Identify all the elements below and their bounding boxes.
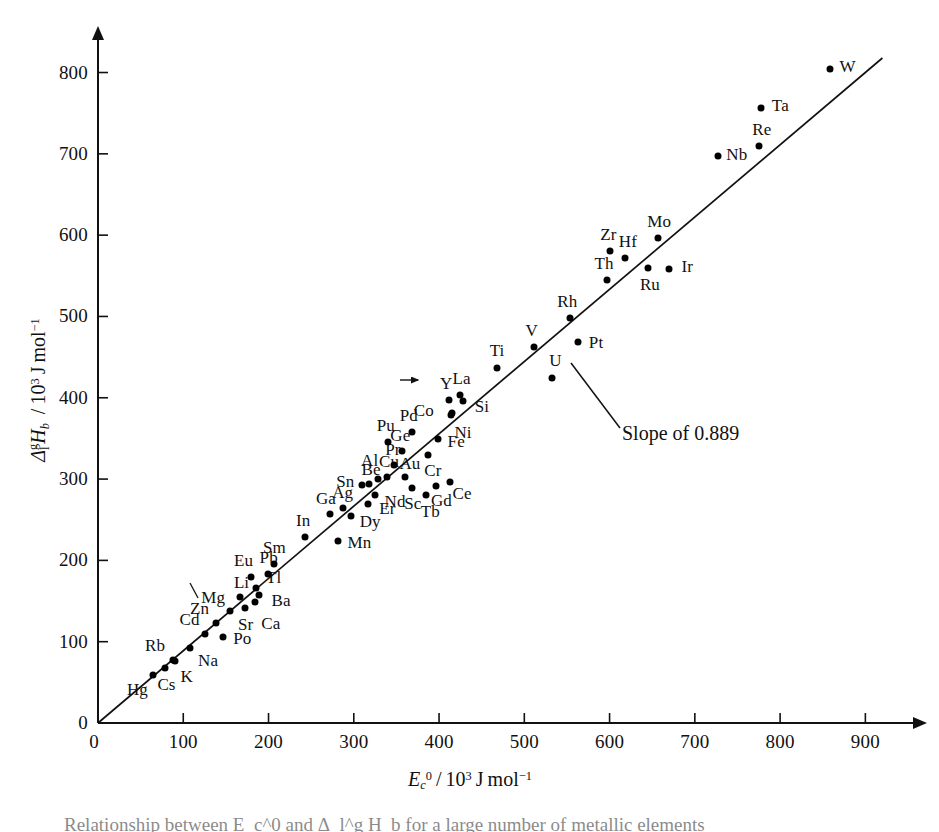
- data-point-label-au: Au: [399, 454, 420, 474]
- data-point-au: [401, 474, 408, 481]
- data-point-ta: [758, 105, 765, 112]
- data-point-label-ru: Ru: [640, 275, 660, 295]
- x-tick-label: 700: [680, 731, 709, 753]
- data-point-label-na: Na: [198, 651, 218, 671]
- data-point-co: [448, 410, 455, 417]
- data-point-ge: [399, 448, 406, 455]
- data-point-label-cr: Cr: [424, 461, 441, 481]
- data-point-w: [826, 66, 833, 73]
- data-point-zr: [607, 248, 614, 255]
- x-tick-label: 0: [89, 731, 99, 753]
- data-point-label-v: V: [525, 321, 537, 341]
- data-point-label-al: Al: [361, 451, 378, 471]
- data-point-tb: [423, 491, 430, 498]
- data-point-zn: [212, 619, 219, 626]
- data-point-label-zr: Zr: [600, 225, 616, 245]
- data-point-mn: [335, 537, 342, 544]
- data-point-pr: [390, 462, 397, 469]
- data-point-label-nb: Nb: [726, 145, 747, 165]
- data-point-pu: [384, 439, 391, 446]
- data-point-re: [755, 142, 762, 149]
- data-point-ru: [644, 264, 651, 271]
- data-point-nb: [714, 153, 721, 160]
- x-axis-title: Ec0 / 103 J mol−1: [408, 768, 532, 793]
- data-point-cr: [424, 451, 431, 458]
- x-tick-label: 300: [339, 731, 368, 753]
- data-point-y: [446, 397, 453, 404]
- data-point-al: [374, 476, 381, 483]
- x-tick-label: 500: [510, 731, 539, 753]
- data-point-rh: [567, 315, 574, 322]
- data-point-label-u: U: [549, 351, 561, 371]
- data-point-hf: [621, 254, 628, 261]
- x-tick-label: 900: [851, 731, 880, 753]
- data-point-mg: [227, 607, 234, 614]
- data-point-label-ta: Ta: [772, 96, 789, 116]
- data-point-label-ca: Ca: [261, 614, 280, 634]
- data-point-be: [366, 480, 373, 487]
- data-point-label-sc: Sc: [404, 494, 421, 514]
- data-point-gd: [433, 482, 440, 489]
- data-point-v: [530, 343, 537, 350]
- data-point-label-si: Si: [475, 397, 489, 417]
- y-tick-label: 800: [59, 62, 88, 84]
- data-point-label-rh: Rh: [557, 292, 577, 312]
- data-point-label-ni: Ni: [454, 423, 471, 443]
- data-point-tl: [252, 585, 259, 592]
- data-point-label-gd: Gd: [431, 491, 452, 511]
- data-point-ba: [256, 592, 263, 599]
- data-point-label-hg: Hg: [127, 680, 148, 700]
- data-point-sc: [408, 485, 415, 492]
- data-point-label-w: W: [839, 57, 855, 77]
- data-point-label-sm: Sm: [263, 538, 286, 558]
- data-point-label-ba: Ba: [272, 591, 291, 611]
- data-point-sr: [241, 604, 248, 611]
- x-tick-label: 600: [595, 731, 624, 753]
- data-point-label-th: Th: [594, 254, 613, 274]
- data-point-ca: [251, 598, 258, 605]
- figure-container: 0100200300400500600700800 01002003004005…: [0, 0, 939, 832]
- data-point-label-ir: Ir: [681, 257, 693, 277]
- data-point-mo: [655, 234, 662, 241]
- data-point-sm: [271, 560, 278, 567]
- data-point-label-dy: Dy: [360, 512, 381, 532]
- data-point-ag: [339, 504, 346, 511]
- data-point-label-ce: Ce: [453, 484, 472, 504]
- slope-annotation-label: Slope of 0.889: [622, 422, 739, 445]
- data-point-th: [604, 276, 611, 283]
- data-point-cs: [161, 664, 168, 671]
- data-point-label-mn: Mn: [348, 533, 372, 553]
- data-point-label-ti: Ti: [490, 341, 505, 361]
- y-tick-label: 100: [59, 631, 88, 653]
- data-point-er: [365, 501, 372, 508]
- x-tick-label: 800: [766, 731, 795, 753]
- data-point-dy: [348, 513, 355, 520]
- data-point-label-li: Li: [234, 573, 249, 593]
- data-point-in: [302, 533, 309, 540]
- ca-pointer-line: [190, 583, 198, 598]
- data-point-label-sr: Sr: [238, 615, 253, 635]
- data-point-label-rb: Rb: [145, 636, 165, 656]
- data-point-li: [236, 593, 243, 600]
- data-point-cd: [201, 630, 208, 637]
- data-point-po: [220, 633, 227, 640]
- data-point-fe: [435, 436, 442, 443]
- plot-area: 0100200300400500600700800 01002003004005…: [0, 0, 939, 800]
- data-point-ga: [326, 511, 333, 518]
- data-point-eu: [248, 574, 255, 581]
- data-point-label-la: La: [452, 369, 470, 389]
- y-tick-label: 300: [59, 468, 88, 490]
- y-axis-title: ΔglHb / 103 J mol−1: [27, 318, 52, 461]
- data-point-label-y: Y: [440, 374, 452, 394]
- data-point-na: [187, 645, 194, 652]
- data-point-label-pu: Pu: [377, 416, 395, 436]
- y-tick-label: 600: [59, 224, 88, 246]
- data-point-si: [459, 398, 466, 405]
- data-point-cu: [384, 473, 391, 480]
- data-point-label-cs: Cs: [157, 675, 175, 695]
- data-point-label-k: K: [181, 667, 193, 687]
- y-tick-label: 200: [59, 549, 88, 571]
- data-point-label-nd: Nd: [385, 492, 406, 512]
- data-point-label-re: Re: [752, 120, 771, 140]
- data-point-label-in: In: [296, 511, 310, 531]
